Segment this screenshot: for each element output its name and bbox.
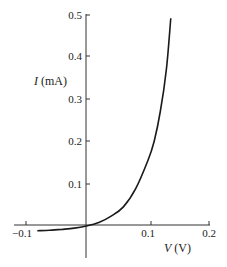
- y-tick-label: 0.5: [68, 9, 82, 21]
- y-axis-label: I (mA): [33, 74, 67, 88]
- x-axis: −0.1 0.1 0.2 V (V): [12, 221, 216, 255]
- x-axis-label: V (V): [164, 241, 191, 255]
- y-tick-label: 0.2: [68, 135, 82, 147]
- x-tick-label: 0.2: [202, 227, 216, 239]
- iv-curve: [37, 18, 171, 231]
- x-tick-label: 0.1: [141, 227, 155, 239]
- y-axis: 0.5 0.4 0.3 0.2 0.1 I (mA): [33, 9, 90, 258]
- chart: −0.1 0.1 0.2 V (V) 0.5 0.4 0.3 0.2 0.1 I…: [0, 0, 227, 267]
- y-tick-label: 0.4: [68, 50, 82, 62]
- y-tick-label: 0.1: [68, 178, 82, 190]
- y-tick-label: 0.3: [68, 93, 82, 105]
- x-tick-label: −0.1: [12, 227, 32, 239]
